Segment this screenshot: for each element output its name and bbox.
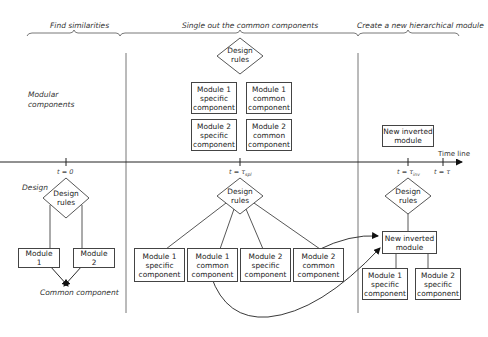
p2-top-m1-common: Module 1commoncomponent — [246, 82, 292, 114]
row-label-design: Design — [22, 183, 48, 192]
p2-top-m2-common: Module 2commoncomponent — [246, 119, 292, 151]
design-rules-p3-text: Designrules — [390, 187, 426, 205]
timeline-axis — [0, 158, 462, 166]
tick-t0: t = 0 — [57, 168, 73, 176]
p2-top-m1-specific: Module 1specificcomponent — [191, 82, 237, 114]
design-rules-p2-text: Designrules — [222, 187, 258, 205]
phase-label-create-module: Create a new hierarchical module — [357, 21, 484, 30]
p1-module-1: Module1 — [18, 248, 60, 268]
p2-bottom-m2-specific: Module 2specificcomponent — [240, 248, 291, 282]
p2-bottom-m1-specific: Module 1specificcomponent — [134, 248, 185, 282]
design-rules-p1-text: Designrules — [48, 189, 84, 207]
phase-label-single-out: Single out the common components — [182, 21, 318, 30]
design-rules-top-text: Designrules — [222, 46, 258, 64]
tick-t-tau: t = τ — [434, 168, 450, 176]
arrows-phase1 — [50, 266, 82, 286]
phase-label-find-similarities: Find similarities — [50, 21, 109, 30]
timeline-label: Time line — [438, 150, 470, 159]
p3-new-inverted-module: New invertedmodule — [382, 231, 437, 254]
p3-m1-specific: Module 1specificcomponent — [362, 268, 408, 300]
p2-bottom-m2-common: Module 2commoncomponent — [293, 248, 344, 282]
p3-top-new-inverted-module: New invertedmodule — [382, 125, 434, 147]
tick-t-spl: t = τspl — [229, 168, 252, 177]
p3-m2-specific: Module 2specificcomponent — [415, 268, 461, 300]
p1-common-component-label: Common component — [40, 288, 119, 297]
row-label-components: components — [28, 100, 74, 109]
row-label-modular: Modular — [28, 90, 58, 99]
p1-module-2: Module2 — [73, 248, 115, 268]
p2-bottom-m1-common: Module 1commoncomponent — [187, 248, 238, 282]
tick-t-inv: t = τinv — [397, 168, 420, 177]
phase-braces — [27, 30, 459, 36]
p2-top-m2-specific: Module 2specificcomponent — [191, 119, 237, 151]
